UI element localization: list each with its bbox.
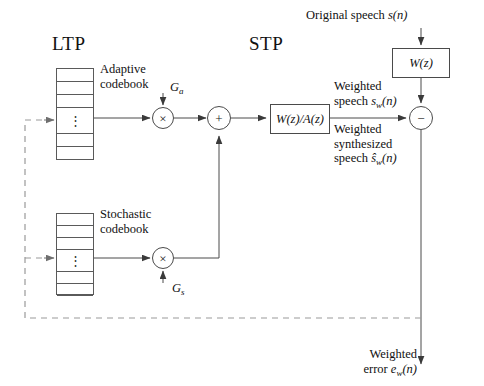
weighted-error-label: Weighted error ew(n) [355, 347, 417, 380]
adaptive-gain-label: Ga [170, 80, 184, 98]
adaptive-codebook-row-7 [57, 160, 93, 173]
weighted-error-text: error [363, 362, 390, 376]
adaptive-codebook-table[interactable]: ⋮ [56, 68, 94, 160]
perceptual-filter-label: W(z) [409, 56, 433, 71]
stochastic-gain-subscript: s [181, 287, 185, 297]
adaptive-codebook-dots-row: ⋮ [57, 108, 93, 134]
adaptive-codebook-label: Adaptive codebook [100, 62, 170, 91]
original-speech-text: Original speech [306, 8, 388, 22]
stochastic-gain-label: Gs [172, 281, 185, 299]
celp-block-diagram: LTP STP ⋮ Adaptive codebook ⋮ Stochastic… [0, 0, 484, 386]
stochastic-codebook-row-6 [57, 284, 93, 296]
weighted-synth-text: speech [334, 151, 371, 165]
weighted-speech-argument: (n) [382, 94, 397, 108]
weighted-synth-line2: synthesized [334, 137, 397, 152]
stochastic-codebook-table[interactable]: ⋮ [56, 213, 94, 295]
weighted-synth-line3: speech ŝw(n) [334, 151, 397, 169]
weighted-error-line1: Weighted [355, 347, 417, 362]
multiply-icon: × [159, 112, 166, 125]
stochastic-codebook-row-2 [57, 226, 93, 238]
adaptive-codebook-row-2 [57, 82, 93, 95]
minus-icon: − [417, 112, 424, 125]
adaptive-codebook-row-6 [57, 147, 93, 160]
adaptive-codebook-row-3 [57, 95, 93, 108]
plus-icon: + [215, 112, 222, 125]
adaptive-codebook-label-line1: Adaptive [100, 62, 170, 77]
perceptual-weighting-filter-block[interactable]: W(z) [392, 48, 450, 78]
stochastic-codebook-label: Stochastic codebook [100, 207, 180, 236]
stochastic-codebook-dots-row: ⋮ [57, 250, 93, 272]
section-heading-stp: STP [249, 33, 283, 55]
stochastic-codebook-row-3 [57, 238, 93, 250]
stochastic-codebook-row-7 [57, 296, 93, 308]
adaptive-codebook-dots: ⋮ [57, 108, 93, 133]
weighted-synthesis-filter-block[interactable]: W(z)/A(z) [270, 104, 330, 134]
adaptive-gain-subscript: a [179, 86, 184, 96]
stochastic-codebook-dots: ⋮ [57, 250, 93, 271]
original-speech-label: Original speech s(n) [306, 8, 407, 23]
adaptive-gain-multiplier[interactable]: × [152, 107, 174, 129]
subtracting-junction[interactable]: − [409, 106, 433, 130]
line-lower-mult-to-sum [174, 136, 219, 258]
stochastic-codebook-label-line1: Stochastic [100, 207, 180, 222]
stochastic-codebook-label-line2: codebook [100, 222, 180, 237]
weighted-synth-line1: Weighted [334, 122, 397, 137]
weighted-error-argument: (n) [402, 362, 417, 376]
weighted-synthesized-speech-label: Weighted synthesized speech ŝw(n) [334, 122, 397, 169]
adaptive-codebook-row-5 [57, 134, 93, 147]
weighted-speech-line1: Weighted [334, 79, 397, 94]
weighted-speech-text: speech [334, 94, 371, 108]
summing-junction[interactable]: + [207, 106, 231, 130]
weighted-speech-line2: speech sw(n) [334, 94, 397, 112]
stochastic-codebook-row-5 [57, 272, 93, 284]
weighted-error-line2: error ew(n) [355, 362, 417, 380]
adaptive-codebook-label-line2: codebook [100, 77, 170, 92]
stochastic-codebook-row-1 [57, 214, 93, 226]
multiply-icon: × [159, 252, 166, 265]
synthesis-filter-label: W(z)/A(z) [276, 112, 324, 127]
adaptive-gain-symbol: G [170, 80, 179, 94]
adaptive-codebook-row-1 [57, 69, 93, 82]
section-heading-ltp: LTP [52, 33, 86, 55]
original-speech-argument: (n) [393, 8, 408, 22]
stochastic-gain-symbol: G [172, 281, 181, 295]
stochastic-gain-multiplier[interactable]: × [152, 247, 174, 269]
weighted-synth-argument: (n) [382, 151, 397, 165]
weighted-speech-label: Weighted speech sw(n) [334, 79, 397, 112]
